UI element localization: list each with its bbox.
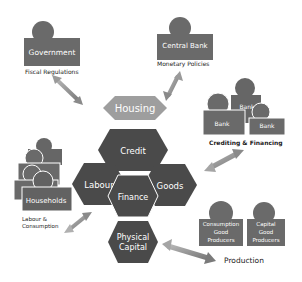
government-housing-arrow <box>52 75 83 105</box>
bank-label-right: Bank <box>259 122 275 129</box>
goods-label: Goods <box>157 181 184 191</box>
households-figure: Households <box>14 138 72 211</box>
finance-label: Finance <box>118 193 149 202</box>
households-label: Households <box>26 197 67 205</box>
households-labour-arrow <box>64 212 92 233</box>
central-bank-label: Central Bank <box>162 42 208 50</box>
consumption-producers-line2: Good <box>214 229 228 235</box>
crediting-financing-caption: Crediting & Financing <box>209 139 283 147</box>
labour-caption-line2: Consumption <box>22 223 59 230</box>
labour-caption-line1: Labour & <box>22 216 48 222</box>
capital-producers-line1: Capital <box>256 221 276 228</box>
production-caption: Production <box>224 256 264 265</box>
economy-diagram: Government Fiscal Regulations Central Ba… <box>0 0 302 282</box>
banks-goods-arrow <box>204 149 244 172</box>
fiscal-regulations-caption: Fiscal Regulations <box>25 68 79 76</box>
bank-label-left: Bank <box>214 120 230 127</box>
physical-capital-label-1: Physical <box>117 233 150 242</box>
capital-producers-figure: Capital Good Producers <box>247 202 285 246</box>
consumption-producers-line3: Producers <box>207 237 234 243</box>
central-bank-housing-arrow <box>163 71 183 101</box>
capital-producers-line3: Producers <box>252 237 279 243</box>
monetary-policies-caption: Monetary Policies <box>157 60 210 68</box>
government-label: Government <box>29 48 76 57</box>
housing-hex: Housing <box>103 96 167 120</box>
credit-label: Credit <box>120 146 146 156</box>
consumption-producers-figure: Consumption Good Producers <box>199 201 243 246</box>
central-bank-figure: Central Bank <box>157 17 213 60</box>
housing-label: Housing <box>115 103 156 114</box>
banks-figure: Bank Bank Bank <box>203 78 285 135</box>
physical-capital-hex: Physical Capital <box>108 221 158 263</box>
consumption-producers-line1: Consumption <box>203 221 240 228</box>
government-figure: Government <box>24 21 80 66</box>
labour-label: Labour <box>84 180 114 190</box>
capital-producers-line2: Good <box>259 229 273 235</box>
finance-hex: Finance <box>108 175 158 217</box>
physical-capital-label-2: Capital <box>119 243 147 252</box>
